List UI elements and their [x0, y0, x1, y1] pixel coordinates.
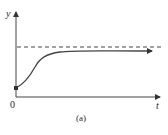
solution-curve: [16, 51, 152, 88]
x-axis-label: t: [156, 100, 159, 111]
chart-figure: y t 0 (a): [0, 0, 168, 135]
figure-caption: (a): [76, 113, 86, 123]
origin-label: 0: [10, 99, 15, 110]
y-axis-label: y: [5, 8, 11, 19]
initial-point-marker: [14, 86, 18, 90]
